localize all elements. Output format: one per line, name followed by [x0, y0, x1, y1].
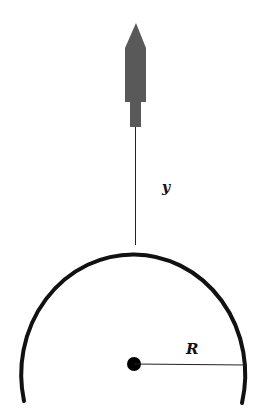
- planet-surface-arc: [21, 254, 245, 403]
- radius-line: [134, 364, 246, 365]
- radius-label: R: [185, 340, 198, 358]
- rocket-planet-diagram: y R: [0, 0, 265, 420]
- rocket-icon: [125, 23, 146, 127]
- height-label: y: [161, 179, 171, 195]
